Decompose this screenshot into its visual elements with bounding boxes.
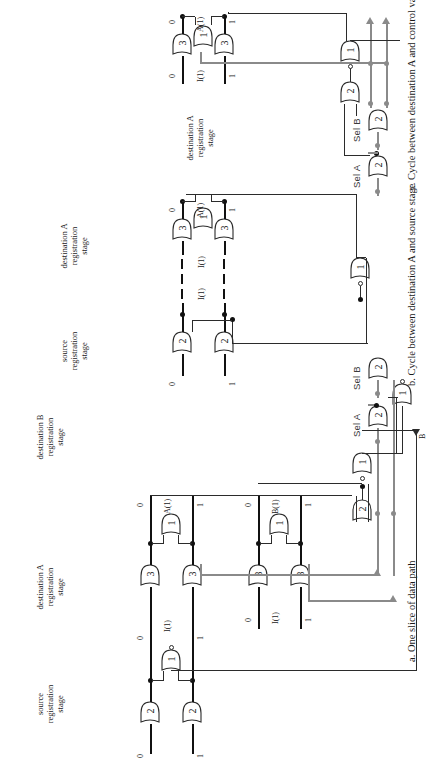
panel-c-rail0-in-label: 0	[168, 74, 177, 78]
dstB-rail1-out	[300, 496, 302, 544]
src-gate-th1-completion: 1	[161, 648, 181, 672]
dstB-comp-in1-h	[286, 535, 287, 544]
panel-b-bus0-seg2	[182, 241, 184, 255]
dstA-rail1-mid	[192, 543, 194, 565]
src-rail0-out-label: 0	[136, 636, 145, 640]
dstA-rail0-out	[150, 496, 152, 544]
panel-b-ack-feed-h	[356, 194, 357, 258]
gate-threshold-value: 1	[350, 256, 370, 280]
panel-c-comp-in1	[211, 16, 224, 17]
gate-threshold-value: 2	[182, 700, 202, 724]
ctrl-inv-feedback	[396, 398, 397, 454]
panel-c-gate-th3-rail0: 3	[172, 32, 192, 56]
dstA-rail1-out-label: 1	[196, 503, 205, 507]
src-comp-inversion-bubble-icon	[169, 645, 174, 650]
panel-a: a. One slice of data path source registr…	[0, 400, 432, 772]
panel-c-out-bus-lower-dot1	[384, 101, 389, 106]
panel-b-ack-return-h	[366, 258, 367, 344]
dstB-rail1-out-label: 1	[304, 503, 313, 507]
dstA-enable-into-stage	[200, 564, 202, 576]
panel-b-bus1-dash2	[223, 274, 225, 284]
panel-a-sel-a-label: Sel A	[352, 414, 363, 437]
panel-c: c. Cycle between destination A and contr…	[0, 0, 432, 200]
dstA-enable-drop	[200, 574, 378, 576]
panel-c-ack-in-h	[344, 104, 345, 156]
gate-threshold-value: 3	[182, 563, 202, 587]
panel-b-bus1-dash3	[223, 259, 225, 269]
src-ack-return-up	[171, 670, 417, 671]
panel-c-caption: c. Cycle between destination A and contr…	[406, 0, 418, 190]
dstA-rail0-out-label: 0	[136, 503, 145, 507]
src-rail0-out	[150, 629, 152, 681]
panel-a-ack-inversion-bubble-icon	[360, 476, 365, 481]
dstA-ack-to-merge	[356, 496, 357, 522]
gate-threshold-value: 2	[368, 108, 388, 132]
panel-b-bus1-seg1	[224, 303, 226, 315]
panel-b-src-rail1-label: 1	[228, 382, 237, 386]
panel-c-comp-in0	[182, 16, 195, 17]
panel-b-ack-into-src	[232, 320, 233, 344]
src-rail1-in-label: 1	[196, 754, 205, 758]
dstB-rail0-out	[258, 496, 260, 544]
gate-threshold-value: 3	[172, 217, 192, 241]
panel-b-dest-a-stage-label: destination A registration stage	[60, 202, 89, 290]
dstB-enable-tap	[391, 511, 396, 516]
panel-c-in-bus-label: I(1)	[196, 70, 205, 82]
rotated-figure-canvas: a. One slice of data path source registr…	[0, 0, 432, 772]
dstB-ack-to-merge	[368, 484, 369, 522]
panel-c-sel-b-dot	[375, 143, 380, 148]
dstA-rail1-out	[192, 496, 194, 544]
panel-b-src-gate-th2-rail0: 2	[172, 330, 192, 354]
dstB-rail0-mid	[258, 543, 260, 565]
gate-threshold-value: 3	[172, 32, 192, 56]
panel-c-sel-a-dot	[375, 189, 380, 194]
sel-ctrl-tap	[374, 403, 379, 408]
panel-b-dstA-gate-th3-rail1: 3	[214, 217, 234, 241]
panel-b-bus0-dash1	[181, 289, 183, 299]
panel-c-sel-b-gate: 2	[368, 108, 388, 132]
dstB-ack-up	[258, 483, 362, 484]
panel-c-rail1-in	[224, 56, 226, 84]
gate-threshold-value: 2	[214, 330, 234, 354]
dstB-rail0-in-label: 0	[244, 618, 253, 622]
panel-c-sel-a-label: Sel A	[352, 165, 363, 188]
dstB-enable-drop	[308, 600, 394, 602]
dstB-rail1-mid	[300, 543, 302, 565]
src-gate-th2-rail1: 2	[182, 700, 202, 724]
panel-c-sel-a-gate: 2	[368, 154, 388, 178]
panel-c-out-bus-label: A(1)	[196, 17, 205, 32]
panel-c-ack-out-down	[350, 40, 400, 41]
dstA-enable-arrow-icon	[373, 569, 381, 576]
panel-b-ack-in-dot	[358, 297, 363, 302]
stage-line: stage	[56, 542, 66, 632]
src-gate-th2-rail0: 2	[140, 700, 160, 724]
panel-c-rail1-out-label: 1	[228, 20, 237, 24]
stage-line: stage	[80, 312, 90, 390]
dstA-enable-tap	[375, 511, 380, 516]
src-rail0-in-label: 0	[136, 754, 145, 758]
panel-b-ack-out-down	[356, 257, 366, 258]
gate-threshold-value: 1	[161, 512, 181, 536]
gate-threshold-value: 2	[172, 330, 192, 354]
src-ack-return	[416, 431, 417, 671]
panel-b-ack-inverting-gate: 1	[350, 256, 370, 280]
src-rail0-in	[150, 724, 152, 754]
dstB-rail1-in	[300, 587, 302, 629]
panel-b-dstA-rail0-out-label: 0	[168, 208, 177, 212]
src-rail1-out-label: 1	[196, 636, 205, 640]
panel-c-rail0-out-label: 0	[168, 20, 177, 24]
panel-b-src-rail0-in	[182, 354, 184, 376]
panel-c-out-bus-upper-arrow-icon	[366, 17, 374, 24]
ack-merge-out-junction	[360, 484, 365, 489]
panel-b-comp-in0	[182, 201, 195, 202]
panel-b-src-th2-link	[192, 320, 193, 332]
dstA-gate-th1-completion: 1	[161, 512, 181, 536]
panel-a-dest-a-stage-label: destination A registration stage	[36, 542, 65, 632]
panel-b-bus0-seg1	[182, 303, 184, 315]
gate-threshold-value: 2	[368, 154, 388, 178]
panel-b-ack-return-up	[232, 343, 368, 344]
panel-a-sel-a-gate: 2	[368, 404, 388, 428]
panel-c-ack-merge-lower-in	[356, 104, 357, 116]
dstB-enable-into-stage	[308, 564, 310, 602]
gate-threshold-value: 3	[214, 217, 234, 241]
